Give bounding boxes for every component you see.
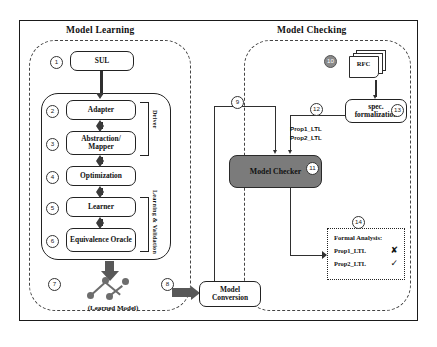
- node-abstraction-mapper[interactable]: Abstraction/ Mapper: [66, 131, 136, 155]
- node-optimization[interactable]: Optimization: [66, 166, 136, 186]
- formal-analysis-box: Formal Analysis: Prop1_LTL ✘ Prop2_LTL ✓: [327, 228, 405, 280]
- node-learner[interactable]: Learner: [66, 197, 136, 217]
- step-number-6: 6: [46, 235, 59, 248]
- connector-into-checker-left: [275, 106, 276, 151]
- node-model-conversion[interactable]: Model Conversion: [199, 281, 261, 307]
- node-sul[interactable]: SUL: [70, 51, 134, 71]
- rfc-label: RFC: [348, 60, 379, 67]
- formal-analysis-row-2: Prop2_LTL ✓: [334, 259, 398, 268]
- step-number-14: 14: [352, 216, 365, 229]
- step-number-12: 12: [310, 103, 323, 116]
- side-label-driver: Driver: [152, 110, 159, 129]
- arrow-learner-down: [96, 223, 104, 229]
- step-number-7: 7: [48, 278, 61, 291]
- step-number-5: 5: [46, 202, 59, 215]
- arrow-into-checker-left: [273, 150, 277, 154]
- formal-analysis-label-1: Prop1_LTL: [334, 247, 366, 254]
- panel-title-model-learning: Model Learning: [66, 25, 135, 35]
- bracket-learning-validation: [140, 197, 149, 252]
- arrow-sul-to-adapter: [96, 93, 104, 99]
- diagram-canvas: Model Learning Model Checking SUL Adapte…: [0, 0, 437, 347]
- arrow-abstraction-up: [96, 155, 104, 161]
- step-number-3: 3: [46, 138, 59, 151]
- learned-model-graph: [84, 272, 140, 302]
- arrow-adapter-up: [96, 120, 104, 126]
- connector-checker-down: [290, 188, 291, 256]
- formal-analysis-title: Formal Analysis:: [334, 234, 398, 241]
- arrow-into-checker-right: [288, 150, 292, 154]
- arrow-optimization-down: [96, 192, 104, 198]
- step-number-11: 11: [306, 162, 319, 175]
- step-number-8: 8: [161, 278, 174, 291]
- rfc-document-stack[interactable]: RFC: [348, 50, 390, 80]
- connector-sul-adapter: [100, 71, 103, 95]
- step-number-10: 10: [324, 55, 337, 68]
- step-number-4: 4: [46, 171, 59, 184]
- bracket-driver: [140, 102, 149, 156]
- side-label-learning-validation: Learning & Validation: [152, 190, 159, 254]
- arrow-abstraction-down: [96, 161, 104, 167]
- panel-title-model-checking: Model Checking: [277, 25, 347, 35]
- label-prop1-ltl: Prop1_LTL: [290, 125, 322, 132]
- arrow-learner-up: [96, 217, 104, 223]
- step-number-2: 2: [46, 105, 59, 118]
- connector-conversion-horizontal: [214, 106, 276, 107]
- step-number-1: 1: [50, 56, 63, 69]
- connector-conversion-vertical: [214, 106, 215, 281]
- label-prop2-ltl: Prop2_LTL: [290, 134, 322, 141]
- big-arrow-shaft-to-conversion: [172, 288, 192, 297]
- node-equivalence-oracle[interactable]: Equivalence Oracle: [66, 228, 136, 252]
- check-icon: ✓: [390, 259, 398, 268]
- formal-analysis-row-1: Prop1_LTL ✘: [334, 246, 398, 255]
- graph-node-1: [87, 292, 94, 299]
- cross-icon: ✘: [390, 246, 398, 255]
- step-number-13: 13: [391, 104, 404, 117]
- arrow-optimization-up: [96, 186, 104, 192]
- formal-analysis-label-2: Prop2_LTL: [334, 260, 366, 267]
- learned-model-label: (Learned Model): [70, 304, 156, 312]
- node-adapter[interactable]: Adapter: [66, 100, 136, 120]
- graph-node-2: [102, 277, 109, 284]
- arrow-adapter-down: [96, 126, 104, 132]
- graph-node-4: [122, 278, 129, 285]
- connector-checker-to-analysis: [290, 255, 325, 256]
- connector-spec-vertical: [290, 115, 291, 151]
- graph-node-3: [106, 293, 113, 300]
- step-number-9: 9: [231, 96, 244, 109]
